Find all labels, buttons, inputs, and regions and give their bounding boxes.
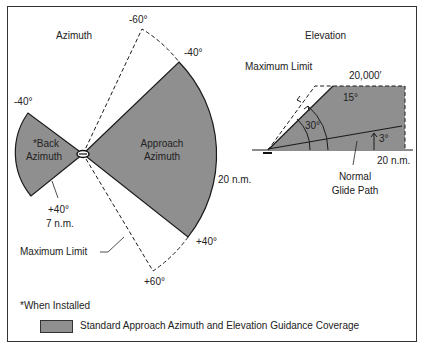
approach-azimuth-label-2: Azimuth — [132, 151, 192, 163]
approach-range-label: 20 n.m. — [218, 174, 251, 186]
angle-3-label: 3° — [379, 133, 389, 145]
footnote: *When Installed — [20, 300, 90, 312]
azimuth-angle-plus40: +40° — [196, 236, 217, 248]
legend-label: Standard Approach Azimuth and Elevation … — [80, 320, 359, 332]
back-azimuth-angle-plus40: +40° — [48, 204, 69, 216]
back-range-label: 7 n.m. — [46, 218, 74, 230]
angle-30-label: 30° — [305, 120, 320, 132]
back-azimuth-label-1: *Back — [26, 138, 66, 150]
elevation-range-label: 20 n.m. — [377, 155, 410, 167]
elevation-title: Elevation — [305, 30, 346, 42]
back-azimuth-angle-minus40: -40° — [14, 96, 32, 108]
approach-azimuth-label-1: Approach — [132, 138, 192, 150]
azimuth-title: Azimuth — [56, 30, 92, 42]
back-azimuth-label-2: Azimuth — [22, 151, 66, 163]
glide-path-label-1: Normal — [320, 171, 390, 183]
azimuth-angle-minus60: -60° — [129, 14, 147, 26]
legend-swatch — [40, 320, 73, 333]
angle-15-label: 15° — [343, 92, 358, 104]
back-angle-leader — [52, 181, 58, 198]
azimuth-angle-minus40: -40° — [184, 47, 202, 59]
azimuth-angle-plus60: +60° — [144, 276, 165, 288]
azimuth-max-limit-label: Maximum Limit — [20, 246, 87, 258]
altitude-label: 20,000′ — [349, 70, 381, 82]
elevation-max-limit-label: Maximum Limit — [245, 61, 312, 73]
glide-path-label-2: Glide Path — [320, 185, 390, 197]
max-limit-leader — [100, 237, 124, 252]
